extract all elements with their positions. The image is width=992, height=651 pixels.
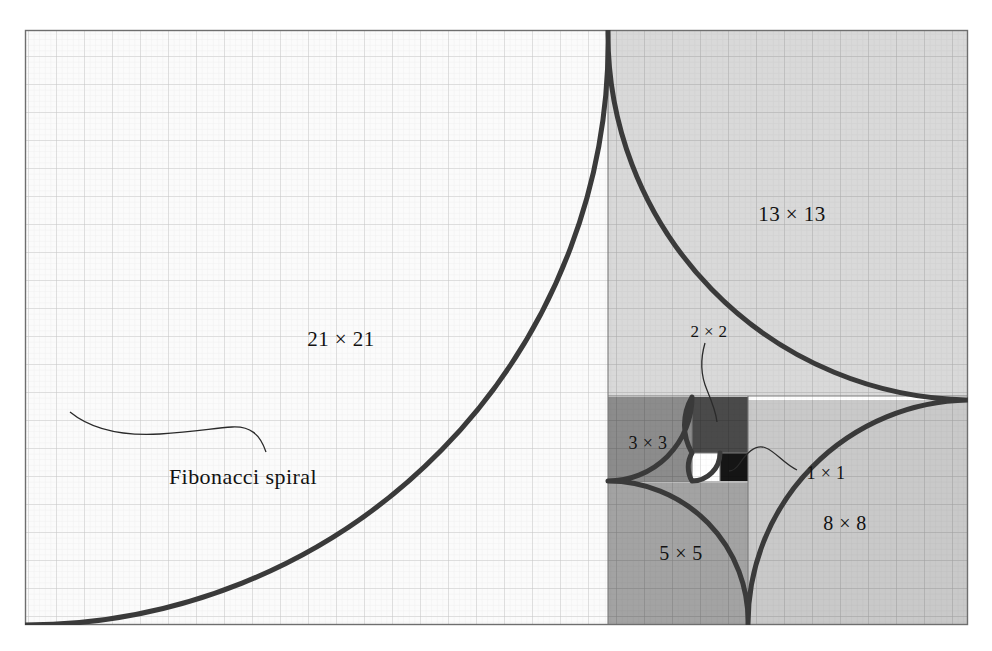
label-square-8x8: 8 × 8 bbox=[823, 513, 866, 533]
leader-2x2 bbox=[702, 343, 717, 422]
label-square-21x21: 21 × 21 bbox=[307, 329, 374, 350]
label-square-13x13: 13 × 13 bbox=[758, 204, 825, 225]
fibonacci-spiral-figure: 21 × 21 13 × 13 8 × 8 5 × 5 3 × 3 2 × 2 … bbox=[0, 0, 992, 651]
leader-1x1 bbox=[729, 447, 797, 471]
label-square-5x5: 5 × 5 bbox=[659, 543, 702, 563]
label-square-3x3: 3 × 3 bbox=[629, 434, 668, 452]
label-fibonacci-spiral: Fibonacci spiral bbox=[169, 466, 317, 488]
label-square-1x1: 1 × 1 bbox=[807, 464, 846, 482]
callout-leader-lines bbox=[0, 0, 992, 651]
leader-fibonacci-spiral bbox=[70, 412, 266, 452]
label-square-2x2: 2 × 2 bbox=[691, 323, 728, 340]
